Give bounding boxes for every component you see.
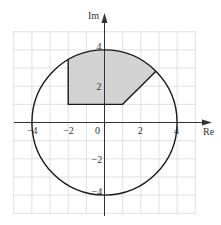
y-tick-label: −2 [92, 154, 103, 165]
y-tick-label: 2 [97, 81, 102, 92]
y-tick-label: −4 [92, 186, 103, 197]
x-axis-label: Re [203, 126, 215, 137]
x-axis-arrow-icon [202, 120, 212, 126]
diagram-svg: Im Re 0 −4−22442−2−4 [0, 0, 221, 225]
argand-diagram: Im Re 0 −4−22442−2−4 [0, 0, 221, 225]
shaded-region [68, 50, 156, 104]
x-tick-label: 4 [174, 125, 179, 136]
origin-label: 0 [95, 125, 100, 136]
y-axis-label: Im [88, 10, 99, 21]
x-tick-label: −4 [27, 125, 38, 136]
x-tick-label: −2 [63, 125, 74, 136]
y-tick-label: 4 [97, 41, 102, 52]
y-axis-arrow-icon [102, 13, 108, 23]
axes [14, 13, 212, 216]
x-tick-label: 2 [138, 125, 143, 136]
